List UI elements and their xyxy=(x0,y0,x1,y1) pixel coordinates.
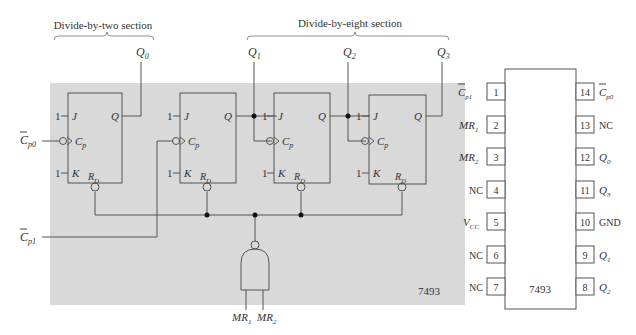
output-q3: Q3 xyxy=(437,45,450,61)
svg-text:Q2: Q2 xyxy=(599,281,611,296)
svg-text:12: 12 xyxy=(580,152,590,163)
svg-text:1: 1 xyxy=(356,110,362,122)
svg-text:9: 9 xyxy=(583,250,588,261)
pin-10: 10 GND xyxy=(576,213,621,230)
circuit-diagram: Divide-by-two section Divide-by-eight se… xyxy=(0,0,636,335)
svg-text:1: 1 xyxy=(356,167,362,179)
svg-text:NC: NC xyxy=(469,185,483,196)
svg-text:1: 1 xyxy=(262,110,268,122)
input-label-cp1: Cp1 xyxy=(20,229,36,246)
svg-text:14: 14 xyxy=(580,87,590,98)
pin-14: 14 Cp0 xyxy=(576,83,614,101)
pin-2: 2 MR1 xyxy=(458,116,505,134)
svg-text:4: 4 xyxy=(494,185,499,196)
pin-13: 13 NC xyxy=(576,116,613,133)
right-pins: 14 Cp0 13 NC 12 Q0 11 Q3 10 GND 9 Q1 8 Q… xyxy=(576,83,621,296)
svg-text:11: 11 xyxy=(580,185,590,196)
svg-text:Q3: Q3 xyxy=(437,45,450,61)
svg-text:K: K xyxy=(71,167,80,179)
svg-text:13: 13 xyxy=(580,120,590,131)
svg-text:1: 1 xyxy=(55,110,61,122)
svg-text:3: 3 xyxy=(494,152,499,163)
svg-text:MR1: MR1 xyxy=(231,311,251,326)
svg-text:Q: Q xyxy=(111,110,119,122)
chip-label: 7493 xyxy=(529,283,552,295)
svg-text:NC: NC xyxy=(469,250,483,261)
input-label-cp0: Cp0 xyxy=(20,132,36,149)
diagram-part-number: 7493 xyxy=(418,285,441,297)
svg-text:7: 7 xyxy=(494,282,499,293)
svg-text:1: 1 xyxy=(55,167,61,179)
section-label-divide-by-two: Divide-by-two section xyxy=(54,19,153,31)
svg-text:8: 8 xyxy=(583,282,588,293)
svg-text:K: K xyxy=(277,167,286,179)
svg-text:NC: NC xyxy=(469,282,483,293)
svg-text:Q0: Q0 xyxy=(599,151,611,166)
svg-text:Q: Q xyxy=(414,110,422,122)
pin-9: 9 Q1 xyxy=(576,246,610,264)
svg-text:5: 5 xyxy=(494,217,499,228)
svg-text:Q: Q xyxy=(318,110,326,122)
svg-text:K: K xyxy=(183,167,192,179)
svg-text:Q3: Q3 xyxy=(599,184,611,199)
svg-text:GND: GND xyxy=(599,217,621,228)
pin-6: 6 NC xyxy=(469,246,505,263)
section-label-divide-by-eight: Divide-by-eight section xyxy=(298,17,403,29)
svg-text:1: 1 xyxy=(494,87,499,98)
svg-text:Cp0: Cp0 xyxy=(20,133,36,149)
pin-1: 1 Cp1 xyxy=(458,83,505,101)
input-label-mr1: MR1 xyxy=(231,311,251,326)
brace-divide-by-eight xyxy=(247,32,449,40)
svg-text:Q2: Q2 xyxy=(343,45,356,61)
svg-text:VCC: VCC xyxy=(463,216,479,231)
pin-11: 11 Q3 xyxy=(576,181,611,199)
output-q0: Q0 xyxy=(136,45,149,61)
svg-text:Q: Q xyxy=(224,110,232,122)
svg-text:1: 1 xyxy=(262,167,268,179)
pin-3: 3 MR2 xyxy=(458,148,505,166)
svg-text:NC: NC xyxy=(599,120,613,131)
brace-divide-by-two xyxy=(54,32,154,40)
svg-text:K: K xyxy=(372,167,381,179)
svg-text:Q1: Q1 xyxy=(599,249,610,264)
svg-text:Q0: Q0 xyxy=(136,45,149,61)
svg-text:6: 6 xyxy=(494,250,499,261)
svg-text:10: 10 xyxy=(580,217,590,228)
pin-7: 7 NC xyxy=(469,278,505,295)
pin-12: 12 Q0 xyxy=(576,148,611,166)
pin-4: 4 NC xyxy=(469,181,505,198)
svg-text:2: 2 xyxy=(494,120,499,131)
svg-text:Q1: Q1 xyxy=(248,45,261,61)
output-q2: Q2 xyxy=(343,45,356,61)
chip-pinout: 7493 1 Cp1 2 MR1 3 MR2 4 NC 5 VCC 6 NC 7… xyxy=(458,69,621,309)
svg-text:1: 1 xyxy=(167,110,173,122)
output-q1: Q1 xyxy=(248,45,261,61)
svg-text:MR2: MR2 xyxy=(256,311,277,326)
pin-5: 5 VCC xyxy=(463,213,505,231)
left-pins: 1 Cp1 2 MR1 3 MR2 4 NC 5 VCC 6 NC 7 NC xyxy=(458,83,505,295)
svg-text:Cp0: Cp0 xyxy=(599,86,614,101)
pin-8: 8 Q2 xyxy=(576,278,611,296)
input-label-mr2: MR2 xyxy=(256,311,277,326)
svg-text:1: 1 xyxy=(167,167,173,179)
svg-text:Cp1: Cp1 xyxy=(20,230,36,246)
